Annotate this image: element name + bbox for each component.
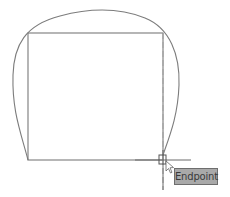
snap-tooltip: Endpoint [174, 168, 218, 185]
cursor-arrow-icon [166, 161, 174, 173]
rectangle[interactable] [28, 33, 163, 160]
